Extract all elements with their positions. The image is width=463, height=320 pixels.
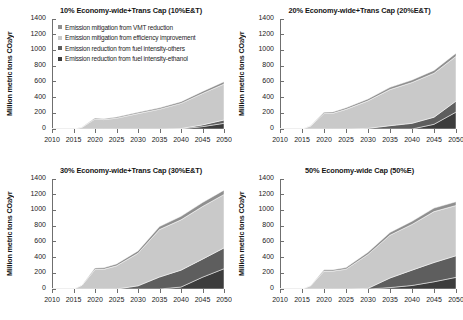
legend-item: Emission mitigation from VMT reduction [58,22,196,32]
x-tick-mark [160,129,161,133]
y-tick-label: 1000 [258,45,274,52]
x-tick-label: 2040 [404,136,420,143]
legend-label: Emission reduction from fuel intensity-o… [65,45,185,52]
x-tick-label: 2030 [130,296,146,303]
legend-item: Emission mitigation from efficiency impr… [58,33,196,43]
area-band-efficiency [280,56,456,129]
x-tick-label: 2025 [109,136,125,143]
x-tick-label: 2020 [87,136,103,143]
x-tick-mark [368,129,369,133]
x-tick-mark [224,129,225,133]
panel-10-percent-et: 10% Economy-wide+Trans Cap (10%E&T) Mill… [0,0,232,160]
x-tick-label: 2050 [216,296,232,303]
y-tick-label: 1200 [30,190,46,197]
x-tick-mark [434,289,435,293]
panel-20-percent-et: 20% Economy-wide+Trans Cap (20%E&T) Mill… [232,0,463,160]
y-axis-label-tail: /yr [237,192,246,200]
x-tick-mark [52,129,53,133]
y-tick-label: 1200 [30,30,46,37]
x-tick-mark [434,129,435,133]
y-tick-label: 800 [34,221,46,228]
x-tick-label: 2025 [338,296,354,303]
x-tick-mark [346,289,347,293]
legend-label: Emission mitigation from efficiency impr… [65,34,196,41]
x-tick-label: 2020 [316,136,332,143]
x-tick-label: 2010 [272,296,288,303]
panel-30-percent-et: 30% Economy-wide+Trans Cap (30%E&T) Mill… [0,160,232,320]
x-tick-mark [74,289,75,293]
legend-item: Emission reduction from fuel intensity-o… [58,43,196,53]
area-chart-30 [52,179,224,289]
y-tick-label: 1400 [30,174,46,181]
x-tick-mark [324,129,325,133]
x-tick-label: 2045 [195,136,211,143]
x-tick-label: 2015 [66,136,82,143]
x-tick-mark [181,129,182,133]
y-tick-label: 800 [262,221,274,228]
y-axis-label-tail: /yr [5,192,14,200]
x-tick-label: 2020 [87,296,103,303]
x-tick-label: 2035 [152,296,168,303]
x-tick-label: 2045 [426,296,442,303]
x-tick-label: 2030 [130,136,146,143]
legend-swatch-ethanol [58,57,62,61]
chart-legend: Emission mitigation from VMT reductionEm… [58,22,196,64]
x-tick-mark [224,289,225,293]
legend-swatch-efficiency [58,36,62,40]
x-tick-mark [390,289,391,293]
y-tick-label: 200 [34,108,46,115]
panel-50-percent-e: 50% Economy-wide Cap (50%E) Million metr… [232,160,463,320]
y-tick-label: 1000 [30,205,46,212]
x-tick-mark [324,289,325,293]
x-tick-label: 2025 [109,296,125,303]
y-tick-label: 0 [270,124,274,131]
y-axis-label-sub: 2 [7,40,13,43]
y-tick-label: 400 [262,253,274,260]
y-axis-label-tail: /yr [5,32,14,40]
legend-label: Emission mitigation from VMT reduction [65,24,173,31]
y-axis-label-sub: 2 [239,40,245,43]
y-tick-label: 1000 [30,45,46,52]
legend-swatch-others [58,46,62,50]
x-tick-label: 2015 [294,136,310,143]
y-tick-label: 600 [262,77,274,84]
y-tick-label: 1400 [258,14,274,21]
x-tick-mark [138,289,139,293]
y-tick-label: 0 [42,284,46,291]
y-tick-label: 1200 [258,190,274,197]
x-tick-mark [368,289,369,293]
plot-area: 0200400600800100012001400201020152020202… [280,179,456,289]
y-axis-label-text: Million metric tons CO [5,203,14,276]
area-chart-50 [280,179,456,289]
y-axis-label-text: Million metric tons CO [237,43,246,116]
x-tick-label: 2025 [338,136,354,143]
y-tick-label: 1000 [258,205,274,212]
y-tick-label: 600 [262,237,274,244]
x-tick-mark [346,129,347,133]
y-tick-label: 400 [262,93,274,100]
y-axis-label-sub: 2 [239,200,245,203]
y-tick-label: 1200 [258,30,274,37]
x-tick-mark [181,289,182,293]
y-tick-label: 600 [34,237,46,244]
x-tick-mark [456,129,457,133]
x-tick-label: 2015 [294,296,310,303]
x-tick-label: 2035 [382,296,398,303]
y-axis-label-text: Million metric tons CO [5,43,14,116]
plot-area: 0200400600800100012001400201020152020202… [280,19,456,129]
x-tick-label: 2030 [360,296,376,303]
y-tick-label: 400 [34,253,46,260]
x-tick-label: 2015 [66,296,82,303]
x-tick-label: 2010 [44,136,60,143]
x-tick-mark [412,289,413,293]
x-tick-mark [203,289,204,293]
x-tick-mark [456,289,457,293]
x-tick-mark [117,129,118,133]
x-tick-mark [95,289,96,293]
x-tick-label: 2040 [173,136,189,143]
y-tick-label: 600 [34,77,46,84]
area-band-efficiency [52,84,224,129]
x-tick-label: 2040 [173,296,189,303]
y-axis-label-text: Million metric tons CO [237,203,246,276]
x-tick-label: 2035 [152,136,168,143]
